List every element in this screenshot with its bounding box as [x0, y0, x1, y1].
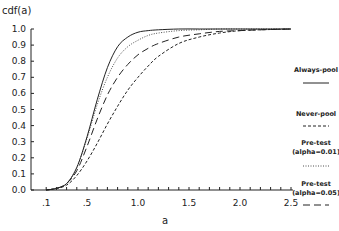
legend-label: (alpha=0.05) [292, 189, 339, 197]
y-axis-title: cdf(a) [2, 5, 31, 16]
y-tick-label: 0.9 [12, 40, 27, 50]
legend-label: Pre-test [301, 139, 331, 147]
y-tick-label: 0.4 [12, 121, 27, 131]
legend-label: (alpha=0.01) [292, 148, 339, 156]
x-tick-label: 2.0 [233, 198, 248, 208]
series-never-pool [46, 29, 291, 190]
series-pre-test-alpha-0-01 [46, 29, 291, 190]
legend-item: Pre-test(alpha=0.01) [292, 139, 339, 166]
plot-series [46, 29, 291, 190]
y-tick-label: 0.6 [12, 88, 27, 98]
y-tick-label: 0.2 [12, 153, 26, 163]
legend-label: Never-pool [296, 110, 336, 118]
y-tick-label: 0.1 [12, 169, 26, 179]
legend-item: Pre-test(alpha=0.05) [292, 180, 339, 205]
x-tick-label: .1 [42, 198, 51, 208]
legend: Always-poolNever-poolPre-test(alpha=0.01… [292, 66, 339, 205]
y-tick-label: 0.7 [12, 72, 26, 82]
series-always-pool [46, 29, 291, 190]
x-tick-label: 2.5 [284, 198, 298, 208]
series-pre-test-alpha-0-05 [46, 29, 291, 190]
y-tick-label: 0.8 [12, 56, 27, 66]
legend-label: Always-pool [294, 66, 338, 74]
y-tick-label: 0.5 [12, 105, 26, 115]
y-tick-label: 0.0 [12, 185, 27, 195]
x-axis-title: a [162, 215, 168, 226]
x-tick-label: .5 [83, 198, 92, 208]
legend-item: Never-pool [296, 110, 336, 126]
cdf-chart: cdf(a) 0.00.10.20.30.40.50.60.70.80.91.0… [0, 0, 339, 231]
legend-label: Pre-test [301, 180, 331, 188]
x-tick-label: 1.5 [182, 198, 196, 208]
axes [31, 29, 293, 190]
legend-item: Always-pool [294, 66, 338, 83]
y-tick-label: 1.0 [12, 24, 27, 34]
y-tick-label: 0.3 [12, 137, 26, 147]
x-tick-label: 1.0 [131, 198, 146, 208]
